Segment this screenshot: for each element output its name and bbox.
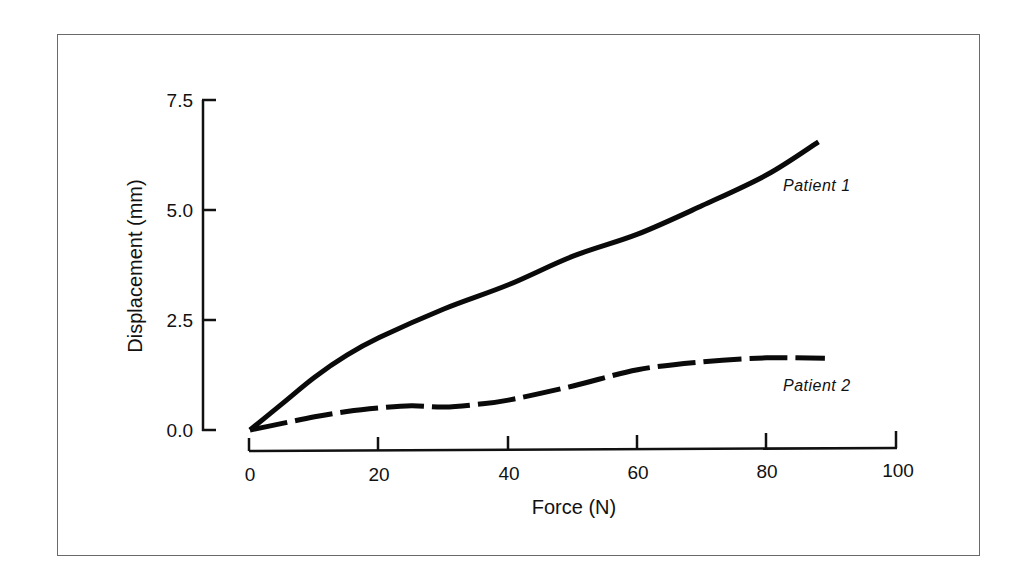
series-layer (250, 142, 825, 430)
y-tick-label: 5.0 (167, 200, 193, 221)
line-chart: 7.5 5.0 2.5 0.0 Displacement (mm) 0 20 4… (0, 0, 1019, 580)
series-line-patient-1 (250, 142, 819, 430)
x-tick-label: 40 (498, 463, 519, 484)
y-tick-label: 7.5 (167, 90, 193, 111)
y-axis-title: Displacement (mm) (124, 179, 146, 352)
series-line-patient-2 (250, 358, 825, 430)
y-tick-label: 0.0 (167, 420, 193, 441)
x-tick-label: 20 (368, 464, 389, 485)
x-tick-label: 80 (756, 461, 777, 482)
x-tick-label: 100 (882, 460, 914, 481)
x-tick-label: 60 (627, 462, 648, 483)
x-tick-label: 0 (245, 464, 256, 485)
x-axis-title: Force (N) (532, 496, 616, 518)
series-label-patient-2: Patient 2 (783, 377, 851, 394)
y-axis: 7.5 5.0 2.5 0.0 Displacement (mm) (124, 90, 216, 441)
series-label-patient-1: Patient 1 (783, 177, 851, 194)
y-tick-label: 2.5 (167, 310, 193, 331)
x-axis: 0 20 40 60 80 100 Force (N) (245, 431, 914, 518)
